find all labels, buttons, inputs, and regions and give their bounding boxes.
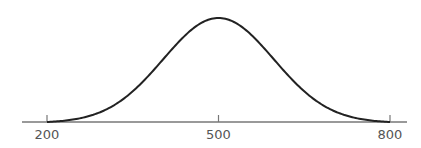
bell-curve [47,18,390,122]
x-tick-label: 200 [35,127,60,142]
x-tick-label: 500 [206,127,231,142]
chart: 200500800 [0,0,421,148]
x-ticks: 200500800 [35,115,403,142]
x-tick-label: 800 [378,127,403,142]
